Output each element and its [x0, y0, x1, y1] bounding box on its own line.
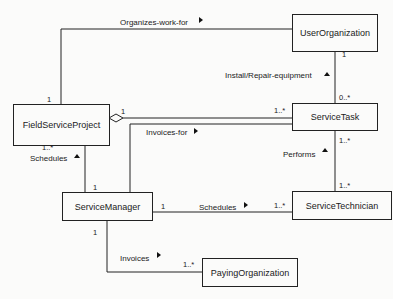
class-paying-organization[interactable]: PayingOrganization: [202, 258, 298, 287]
multiplicity: 1..*: [42, 144, 53, 152]
multiplicity: 1: [161, 203, 165, 211]
association-label: Performs: [283, 151, 315, 159]
direction-arrow-right-icon: [194, 128, 198, 134]
direction-arrow-right-icon: [157, 252, 161, 258]
multiplicity: 1: [47, 96, 51, 104]
multiplicity: 1..*: [274, 107, 285, 115]
multiplicity: 1: [342, 51, 346, 59]
class-service-manager[interactable]: ServiceManager: [62, 192, 153, 221]
class-field-service-project[interactable]: FieldServiceProject: [13, 104, 110, 146]
direction-arrow-up-icon: [324, 72, 330, 76]
class-name: UserOrganization: [300, 28, 370, 38]
multiplicity: 1..*: [183, 261, 194, 269]
association-label: Invoices-for: [146, 129, 187, 137]
class-name: ServiceManager: [75, 202, 141, 212]
association-label: Install/Repair-equipment: [225, 72, 312, 80]
association-label: Schedules: [30, 155, 67, 163]
multiplicity: 1: [93, 229, 97, 237]
direction-arrow-right-icon: [244, 202, 248, 208]
association-label: Organizes-work-for: [120, 19, 188, 27]
class-user-organization[interactable]: UserOrganization: [292, 14, 378, 52]
direction-arrow-right-icon: [199, 17, 203, 23]
direction-arrow-up-icon: [74, 154, 80, 158]
multiplicity: 1..*: [339, 137, 350, 145]
direction-arrow-up-icon: [322, 148, 328, 152]
class-service-task[interactable]: ServiceTask: [292, 103, 378, 131]
class-name: FieldServiceProject: [23, 120, 101, 130]
multiplicity: 1: [93, 184, 97, 192]
multiplicity: 1..*: [274, 202, 285, 210]
multiplicity: 1: [121, 108, 125, 116]
association-label: Schedules: [199, 204, 236, 212]
class-name: ServiceTask: [311, 112, 360, 122]
multiplicity: 0..*: [339, 94, 350, 102]
class-name: PayingOrganization: [211, 268, 290, 278]
multiplicity: 1..*: [339, 182, 350, 190]
class-name: ServiceTechnician: [306, 201, 379, 211]
association-organizes-work-for: [61, 29, 292, 104]
association-label: Invoices: [120, 255, 149, 263]
class-service-technician[interactable]: ServiceTechnician: [292, 191, 392, 220]
